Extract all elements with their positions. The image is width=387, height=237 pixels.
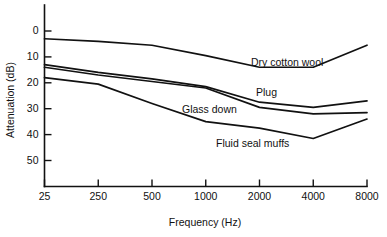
series-label-glass-down: Glass down [182,103,237,115]
y-axis-title: Attenuation (dB) [4,62,16,138]
y-tick-label-40: 40 [27,128,39,140]
x-tick-label-2000: 2000 [248,190,272,202]
y-tick-label-0: 0 [33,24,39,36]
x-tick-label-500: 500 [143,190,161,202]
series-label-plug: Plug [256,86,277,98]
x-tick-label-25: 25 [39,190,51,202]
series-label-dry-cotton-wool: Dry cotton wool [251,56,323,68]
y-tick-label-10: 10 [27,50,39,62]
x-tick-label-1000: 1000 [194,190,218,202]
series-label-fluid-seal-muffs: Fluid seal muffs [216,137,289,149]
x-axis-title: Frequency (Hz) [169,216,241,228]
y-tick-label-20: 20 [27,76,39,88]
attenuation-vs-frequency-chart: 01020304050 252505001000200040008000 Dry… [0,0,387,237]
x-tick-label-4000: 4000 [302,190,326,202]
x-tick-label-250: 250 [89,190,107,202]
x-tick-label-8000: 8000 [355,190,379,202]
y-tick-label-30: 30 [27,102,39,114]
chart-container: 01020304050 252505001000200040008000 Dry… [0,0,387,237]
y-tick-label-50: 50 [27,154,39,166]
